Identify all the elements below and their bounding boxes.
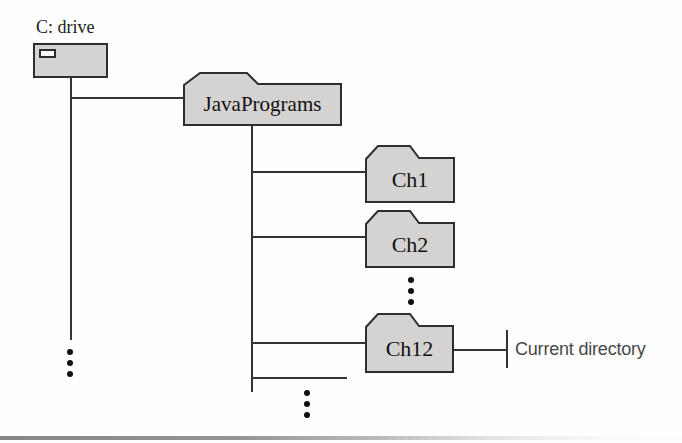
ellipsis-dot [304,401,310,407]
ellipsis-dot [408,277,414,283]
drive-icon [33,43,108,78]
folder-javaprograms-label: JavaPrograms [183,84,342,125]
drive-label: C: drive [36,17,95,38]
ellipsis-dot [67,349,73,355]
current-directory-pointer-line [454,349,507,351]
drive-slot-icon [39,49,56,58]
folder-javaprograms: JavaPrograms [183,72,342,126]
directory-tree-diagram: C: drive JavaPrograms Ch1 Ch2 [0,0,682,443]
folder-ch1: Ch1 [365,145,455,203]
branch-line-more [251,377,347,379]
ellipsis-dot [67,360,73,366]
vertical-ellipsis-icon [304,390,310,418]
branch-line-ch2 [251,236,366,238]
page-edge-divider [0,436,682,440]
ellipsis-dot [67,371,73,377]
folder-ch2: Ch2 [365,210,455,268]
current-directory-label: Current directory [515,339,646,360]
drive-trunk-line [70,78,72,340]
ellipsis-dot [408,288,414,294]
branch-line-ch1 [251,171,366,173]
branch-line-javaprograms [70,97,183,99]
current-directory-pointer-bar [506,330,508,368]
branch-line-ch12 [251,342,366,344]
vertical-ellipsis-icon [408,277,414,305]
javaprograms-trunk-line [251,126,253,392]
ellipsis-dot [304,390,310,396]
ellipsis-dot [408,299,414,305]
ellipsis-dot [304,412,310,418]
vertical-ellipsis-icon [67,349,73,377]
folder-ch12-label: Ch12 [365,326,454,372]
folder-ch1-label: Ch1 [365,158,455,202]
folder-ch2-label: Ch2 [365,223,455,267]
folder-ch12: Ch12 [365,313,454,373]
